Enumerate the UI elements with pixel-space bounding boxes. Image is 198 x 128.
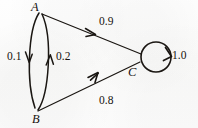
edge-weight-b-to-c: 0.8 (99, 95, 113, 107)
edge-a-to-c-path (42, 14, 141, 54)
edge-b-to-c-path (38, 62, 140, 111)
edge-weight-a-to-c: 0.9 (99, 16, 113, 28)
edge-b-to-c (38, 62, 140, 111)
arrowhead-b-to-a-icon (46, 55, 53, 65)
edge-a-to-b-path (29, 13, 39, 108)
edge-weight-c-self-loop: 1.0 (172, 50, 186, 62)
diagram-canvas: A B C 0.1 0.2 0.9 0.8 1.0 (0, 0, 198, 128)
edge-weight-a-to-b: 0.1 (7, 51, 21, 63)
node-label-b: B (32, 113, 40, 126)
edge-c-self-loop-circle (141, 42, 171, 72)
node-label-a: A (31, 1, 39, 14)
edge-a-to-c (42, 14, 141, 54)
edge-weight-b-to-a: 0.2 (56, 51, 70, 63)
edge-c-self-loop (141, 42, 172, 72)
node-label-c: C (128, 66, 136, 79)
edge-a-to-b (26, 13, 40, 108)
edge-b-to-a (38, 14, 53, 110)
